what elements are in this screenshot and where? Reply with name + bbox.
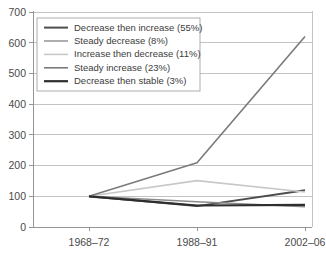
y-tick-label: 600	[8, 37, 26, 49]
y-tick-label: 500	[8, 67, 26, 79]
chart-legend: Decrease then increase (55%)Steady decre…	[37, 18, 202, 91]
x-axis-tick-labels: 1968–721988–912002–06	[69, 236, 326, 248]
y-tick-label: 200	[8, 159, 26, 171]
x-tick-label: 2002–06	[285, 236, 326, 248]
legend-label-2: Increase then decrease (11%)	[74, 48, 201, 59]
y-tick-label: 300	[8, 129, 26, 141]
x-tick-label: 1988–91	[177, 236, 218, 248]
y-tick-label: 100	[8, 190, 26, 202]
chart-canvas: 0100200300400500600700 1968–721988–91200…	[0, 0, 326, 256]
legend-label-4: Decrease then stable (3%)	[74, 75, 186, 86]
y-axis-tick-labels: 0100200300400500600700	[8, 6, 26, 233]
legend-label-1: Steady decrease (8%)	[74, 35, 168, 46]
y-tick-label: 400	[8, 98, 26, 110]
legend-label-0: Decrease then increase (55%)	[74, 22, 202, 33]
x-tick-label: 1968–72	[69, 236, 110, 248]
line-chart: 0100200300400500600700 1968–721988–91200…	[0, 0, 326, 256]
legend-label-3: Steady increase (23%)	[74, 62, 170, 73]
y-tick-label: 0	[20, 221, 26, 233]
y-tick-label: 700	[8, 6, 26, 18]
